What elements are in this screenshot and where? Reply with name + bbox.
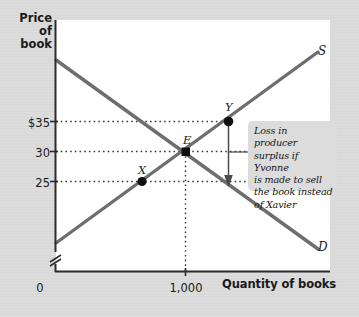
figure-canvas: Price of book Quantity of books $35 30 2… — [0, 0, 359, 317]
loss-arrow — [224, 124, 233, 187]
point-y-label: Y — [225, 100, 233, 114]
y-tick-label-25: 25 — [6, 176, 50, 190]
point-e-label: E — [183, 133, 191, 147]
x-tick-label-0: 0 — [26, 281, 54, 295]
point-y-marker — [224, 117, 234, 127]
point-x-marker — [137, 177, 146, 186]
y-tick-label-30: 30 — [6, 146, 50, 160]
supply-curve-label: S — [318, 44, 326, 58]
y-axis-title: Price of book — [4, 12, 52, 51]
point-e-marker — [182, 148, 191, 157]
point-x-label: X — [138, 163, 146, 177]
x-tick-label-1000: 1,000 — [160, 281, 212, 295]
x-axis-title: Quantity of books — [222, 278, 336, 291]
annotation-callout-box: Loss in producer surplus if Yvonne is ma… — [248, 121, 337, 191]
annotation-callout-text: Loss in producer surplus if Yvonne is ma… — [254, 125, 333, 211]
y-tick-label-35: $35 — [6, 116, 50, 130]
demand-curve-label: D — [318, 240, 328, 254]
